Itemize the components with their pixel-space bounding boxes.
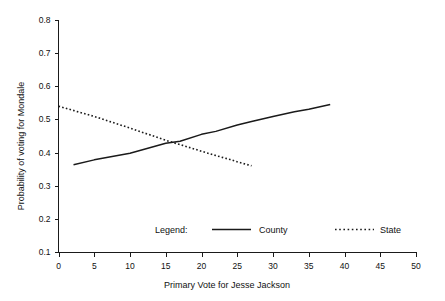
x-axis-title: Primary Vote for Jesse Jackson — [164, 280, 290, 290]
x-tick-label: 45 — [376, 261, 386, 271]
x-tick-group: 05101520253035404550 — [56, 252, 421, 271]
legend-label-county: County — [259, 225, 288, 235]
legend: Legend: County State — [155, 225, 401, 235]
legend-title: Legend: — [155, 225, 188, 235]
top-caption-fragment — [0, 0, 445, 4]
x-tick-label: 50 — [411, 261, 421, 271]
x-tick-label: 30 — [268, 261, 278, 271]
y-tick-label: 0.8 — [39, 15, 51, 25]
y-axis: 0.10.20.30.40.50.60.70.8 — [39, 15, 59, 257]
x-axis: 05101520253035404550 — [56, 252, 421, 271]
y-tick-label: 0.6 — [39, 81, 51, 91]
legend-label-state: State — [380, 225, 401, 235]
y-tick-label: 0.7 — [39, 48, 51, 58]
x-tick-label: 15 — [161, 261, 171, 271]
chart-figure: 0.10.20.30.40.50.60.70.8 051015202530354… — [0, 0, 445, 301]
y-tick-label: 0.1 — [39, 247, 51, 257]
y-tick-label: 0.5 — [39, 114, 51, 124]
x-tick-label: 25 — [233, 261, 243, 271]
plot-area — [59, 105, 331, 166]
x-tick-label: 5 — [92, 261, 97, 271]
y-axis-title: Probability of voting for Mondale — [16, 82, 26, 211]
y-tick-label: 0.2 — [39, 214, 51, 224]
y-tick-label: 0.3 — [39, 181, 51, 191]
x-tick-label: 0 — [56, 261, 61, 271]
y-tick-group: 0.10.20.30.40.50.60.70.8 — [39, 15, 59, 257]
series-line-county — [74, 105, 331, 165]
line-chart-svg: 0.10.20.30.40.50.60.70.8 051015202530354… — [0, 0, 445, 301]
series-line-state — [59, 106, 252, 166]
x-tick-label: 10 — [125, 261, 135, 271]
x-tick-label: 40 — [340, 261, 350, 271]
x-tick-label: 20 — [197, 261, 207, 271]
y-tick-label: 0.4 — [39, 148, 51, 158]
x-tick-label: 35 — [304, 261, 314, 271]
